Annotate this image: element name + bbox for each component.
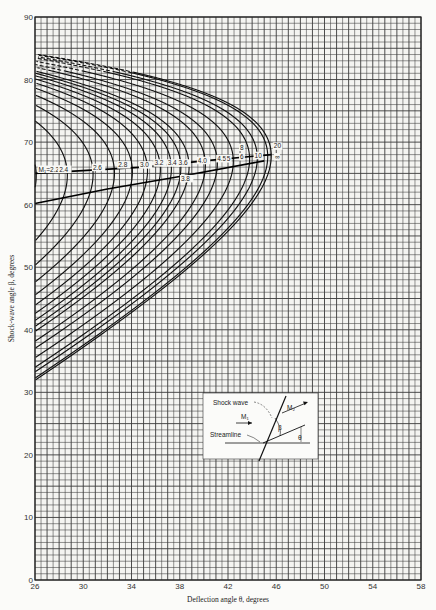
mach-label: 4.0 <box>198 157 207 164</box>
mach-label: 10 <box>255 152 263 159</box>
x-tick-label: 50 <box>320 582 329 591</box>
mach-label: 3.6 <box>179 159 188 166</box>
theta-symbol: θ <box>298 434 302 441</box>
x-tick-label: 42 <box>224 582 233 591</box>
x-axis-label: Deflection angle θ, degrees <box>187 595 269 604</box>
mach-label: 8 <box>240 144 244 151</box>
grid <box>35 17 421 580</box>
m2-label: M₂ <box>287 404 295 411</box>
y-tick-label: 0 <box>29 576 34 585</box>
mach-label: 3.8 <box>181 175 190 182</box>
mach-label: M₁=2.2 <box>39 166 60 173</box>
x-tick-label: 54 <box>368 582 377 591</box>
mach-label: ∞ <box>275 153 280 160</box>
y-tick-label: 70 <box>24 138 33 147</box>
shock-wave-label: Shock wave <box>213 399 248 406</box>
x-tick-label: 58 <box>417 582 426 591</box>
mach-label: 6 <box>240 153 244 160</box>
y-tick-label: 50 <box>24 263 33 272</box>
y-tick-label: 30 <box>24 388 33 397</box>
beta-symbol: β <box>278 424 282 432</box>
y-tick-label: 90 <box>24 13 33 22</box>
m1-label: M₁ <box>241 413 249 420</box>
mach-label: 20 <box>274 142 282 149</box>
mach-label: 5 <box>227 155 231 162</box>
mach-label: 3.0 <box>140 161 149 168</box>
y-tick-label: 40 <box>24 326 33 335</box>
inset-diagram: Shock waveM₁M₂Streamlineβθ <box>203 393 318 461</box>
x-tick-label: 38 <box>175 582 184 591</box>
mach-label: 2.4 <box>59 166 68 173</box>
y-tick-label: 20 <box>24 451 33 460</box>
y-tick-label: 10 <box>24 513 33 522</box>
x-tick-label: 34 <box>127 582 136 591</box>
mach-label: 3.2 <box>154 159 163 166</box>
x-tick-label: 30 <box>79 582 88 591</box>
mach-label: 2.6 <box>93 164 102 171</box>
mach-label: 2.8 <box>118 161 127 168</box>
streamline-label: Streamline <box>210 431 241 438</box>
y-tick-label: 60 <box>24 201 33 210</box>
shock-polar-chart: M₁=2.22.42.62.83.03.23.43.63.84.04.55681… <box>0 0 436 610</box>
x-tick-label: 46 <box>272 582 281 591</box>
y-axis-label: Shock-wave angle β, degrees <box>7 255 16 343</box>
y-tick-label: 80 <box>24 76 33 85</box>
mach-label: 3.4 <box>168 159 177 166</box>
mach-label: 4.5 <box>217 155 226 162</box>
